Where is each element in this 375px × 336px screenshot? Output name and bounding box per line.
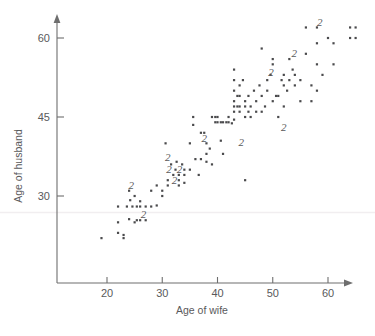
data-point <box>261 95 263 97</box>
data-point <box>214 116 216 118</box>
data-point <box>272 100 274 102</box>
data-point <box>167 179 169 181</box>
data-point <box>134 195 136 197</box>
data-point <box>117 205 119 207</box>
data-point <box>216 116 218 118</box>
overlap-count-label: 2 <box>317 16 323 28</box>
x-tick-label: 20 <box>101 287 113 299</box>
x-tick-label: 40 <box>211 287 223 299</box>
data-point <box>244 116 246 118</box>
data-point <box>299 100 301 102</box>
y-axis-arrow-icon <box>54 14 61 23</box>
data-point <box>305 26 307 28</box>
data-point <box>286 90 288 92</box>
x-axis-arrow-icon <box>344 280 353 287</box>
overlap-count-label: 2 <box>239 136 245 148</box>
data-point <box>183 182 185 184</box>
data-point <box>194 158 196 160</box>
x-tick-group: 2030405060 <box>101 277 334 299</box>
overlap-count-label: 2 <box>172 174 178 186</box>
data-point <box>242 79 244 81</box>
data-point <box>164 142 166 144</box>
overlap-count-label: 2 <box>141 208 147 220</box>
data-point <box>122 234 124 236</box>
overlap-count-label: 2 <box>165 151 171 163</box>
data-point <box>150 205 152 207</box>
data-point <box>332 63 334 65</box>
data-point <box>178 179 180 181</box>
data-point <box>292 69 294 71</box>
data-point <box>294 74 296 76</box>
data-point <box>150 190 152 192</box>
data-point <box>189 169 191 171</box>
data-point <box>283 84 285 86</box>
data-point <box>280 79 282 81</box>
data-point <box>327 37 329 39</box>
data-point <box>122 237 124 239</box>
data-point <box>283 74 285 76</box>
overlap-count-label: 2 <box>177 163 183 175</box>
data-point <box>227 121 229 123</box>
data-point <box>178 184 180 186</box>
overlap-count-label: 2 <box>201 132 207 144</box>
data-point <box>316 90 318 92</box>
data-point <box>209 148 211 150</box>
data-point <box>258 84 260 86</box>
data-point <box>275 95 277 97</box>
overlap-count-label: 2 <box>129 179 135 191</box>
data-point <box>134 221 136 223</box>
data-point <box>236 95 238 97</box>
data-point <box>200 158 202 160</box>
data-point <box>216 121 218 123</box>
data-point <box>253 90 255 92</box>
x-tick-label: 60 <box>322 287 334 299</box>
overlap-count-label: 2 <box>292 47 298 59</box>
data-point <box>236 105 238 107</box>
chart-canvas: 304560 2030405060 222222222222 Age of wi… <box>0 0 375 336</box>
overlap-count-label: 2 <box>268 66 274 78</box>
scatter-plot-figure: 304560 2030405060 222222222222 Age of wi… <box>0 0 375 336</box>
y-tick-label: 60 <box>38 32 50 44</box>
data-point <box>131 205 133 207</box>
data-point <box>220 140 222 142</box>
data-point <box>321 74 323 76</box>
data-point <box>310 84 312 86</box>
data-point <box>288 58 290 60</box>
x-tick-label: 50 <box>267 287 279 299</box>
data-point <box>264 105 266 107</box>
data-point <box>233 119 235 121</box>
data-point <box>244 179 246 181</box>
y-axis-title: Age of husband <box>12 129 24 203</box>
data-point <box>129 199 131 201</box>
y-tick-label: 30 <box>38 190 50 202</box>
data-point <box>316 63 318 65</box>
data-point <box>261 47 263 49</box>
data-point <box>136 205 138 207</box>
data-point <box>205 161 207 163</box>
x-axis <box>57 280 353 287</box>
x-tick-label: 30 <box>156 287 168 299</box>
data-point <box>294 84 296 86</box>
data-point <box>192 124 194 126</box>
data-point <box>355 37 357 39</box>
data-point <box>156 204 158 206</box>
data-point <box>183 174 185 176</box>
data-point <box>211 116 213 118</box>
data-points-layer <box>100 26 356 239</box>
data-point <box>266 79 268 81</box>
data-point <box>233 100 235 102</box>
data-point <box>310 100 312 102</box>
data-point <box>255 100 257 102</box>
data-point <box>349 37 351 39</box>
data-point <box>233 69 235 71</box>
data-point <box>189 142 191 144</box>
data-point <box>239 105 241 107</box>
data-point <box>227 116 229 118</box>
data-point <box>288 79 290 81</box>
data-point <box>161 195 163 197</box>
data-point <box>272 58 274 60</box>
data-point <box>266 90 268 92</box>
data-point <box>183 169 185 171</box>
data-point <box>161 190 163 192</box>
data-point <box>156 184 158 186</box>
